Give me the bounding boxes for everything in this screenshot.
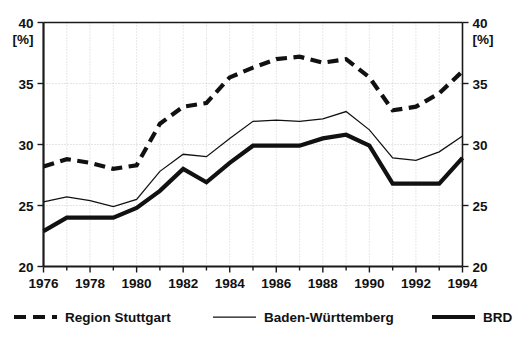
y-axis-label-right: 30 <box>473 138 488 153</box>
series-line-baden-wuerttemberg <box>44 112 463 207</box>
y-axis-label-right: 20 <box>473 260 488 275</box>
y-axis-label-left: 40 <box>18 16 33 31</box>
x-axis-label: 1994 <box>447 276 478 291</box>
chart-legend: Region StuttgartBaden-WürttembergBRD <box>14 310 512 325</box>
x-axis-label: 1990 <box>354 276 384 291</box>
x-axis-label: 1986 <box>261 276 292 291</box>
chart-figure: 40403535303025252020[%][%]19761978198019… <box>0 0 524 340</box>
axis-labels: 40403535303025252020[%][%]19761978198019… <box>13 16 494 291</box>
y-axis-label-left: 20 <box>18 260 33 275</box>
legend-label: Region Stuttgart <box>65 310 171 325</box>
legend-label: BRD <box>483 310 512 325</box>
x-axis-label: 1978 <box>75 276 106 291</box>
x-axis-label: 1992 <box>401 276 431 291</box>
x-axis-label: 1982 <box>168 276 198 291</box>
x-axis-label: 1976 <box>28 276 59 291</box>
legend-label: Baden-Württemberg <box>264 310 394 325</box>
legend-item-baden-wuerttemberg: Baden-Württemberg <box>213 310 394 325</box>
line-chart: 40403535303025252020[%][%]19761978198019… <box>0 0 524 340</box>
y-axis-unit-right: [%] <box>473 32 494 47</box>
legend-item-brd: BRD <box>432 310 512 325</box>
legend-item-region-stuttgart: Region Stuttgart <box>14 310 171 325</box>
x-axis-label: 1988 <box>308 276 339 291</box>
x-axis-label: 1980 <box>122 276 152 291</box>
y-axis-label-left: 30 <box>18 138 33 153</box>
y-axis-label-right: 40 <box>473 16 488 31</box>
y-axis-label-right: 35 <box>473 77 489 92</box>
x-axis-label: 1984 <box>215 276 246 291</box>
y-axis-unit-left: [%] <box>13 32 34 47</box>
y-axis-label-left: 25 <box>18 199 34 214</box>
y-axis-label-left: 35 <box>18 77 34 92</box>
y-axis-label-right: 25 <box>473 199 489 214</box>
